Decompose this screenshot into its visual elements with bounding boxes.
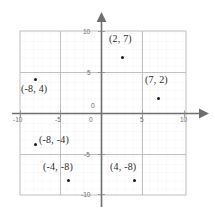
point-label-neg8-neg4: (-8, -4) — [39, 134, 69, 145]
point-label-2-7: (2, 7) — [109, 33, 132, 44]
point-dot-2-7 — [121, 56, 124, 59]
point-label-7-2: (7, 2) — [145, 74, 168, 85]
point-dot-neg8-neg4 — [34, 143, 37, 146]
point-dot-7-2 — [157, 97, 160, 100]
x-tick-label-neg5: -5 — [55, 116, 61, 123]
point-label-4-neg8: (4, -8) — [110, 161, 136, 172]
coordinate-plane-figure: -10 -5 0 5 10 10 5 0 -5 -10 (2, 7) (7, 2… — [0, 0, 215, 217]
y-tick-label-5: 5 — [87, 69, 91, 76]
point-label-neg8-4: (-8, 4) — [21, 83, 47, 94]
x-axis-arrow-icon — [199, 109, 209, 119]
x-tick-label-10: 10 — [180, 116, 187, 123]
point-dot-neg8-4 — [34, 78, 37, 81]
y-tick-label-zero: 0 — [91, 102, 95, 109]
x-tick-label-zero: 0 — [89, 116, 93, 123]
coordinate-plane-canvas — [0, 0, 215, 217]
y-tick-label-10: 10 — [83, 28, 90, 35]
y-tick-label-neg10: -10 — [81, 191, 90, 198]
x-tick-label-neg10: -10 — [13, 116, 22, 123]
y-tick-label-neg5: -5 — [84, 151, 90, 158]
point-label-neg4-neg8: (-4, -8) — [43, 161, 73, 172]
y-axis-arrow-icon — [97, 12, 107, 22]
x-tick-label-5: 5 — [140, 116, 144, 123]
point-dot-4-neg8 — [133, 179, 136, 182]
